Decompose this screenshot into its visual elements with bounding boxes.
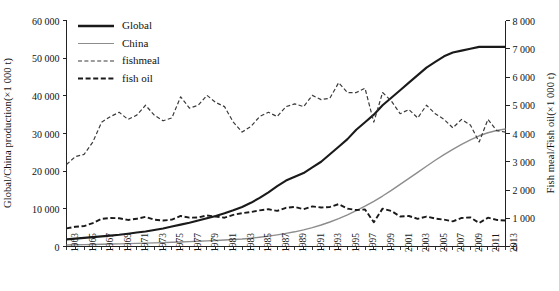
chart-figure: Global/China production(×1 000 t) Fish m… <box>0 0 559 291</box>
legend-label-Global: Global <box>122 19 152 31</box>
x-tick-label: 2003 <box>421 233 431 252</box>
x-tick-label: 1991 <box>316 233 326 252</box>
x-tick-label: 1963 <box>70 233 80 252</box>
x-tick-label: 1995 <box>351 233 361 252</box>
x-tick-label: 1965 <box>88 233 98 252</box>
y-tick-label-left: 0 <box>55 241 60 252</box>
x-tick-label: 2009 <box>474 233 484 252</box>
y-tick-label-left: 60 000 <box>32 15 60 26</box>
y-tick-label-left: 50 000 <box>32 53 60 64</box>
x-tick-label: 1977 <box>193 233 203 252</box>
x-tick-label: 1979 <box>210 233 220 252</box>
x-tick-label: 1971 <box>140 233 150 252</box>
y-tick-label-right: 3 000 <box>513 156 536 167</box>
x-tick-label: 1993 <box>333 233 343 252</box>
series-line-fish-oil <box>67 204 506 228</box>
legend-label-fish-oil: fish oil <box>122 72 153 84</box>
y-axis-title-right: Fish meal/Fish oil(×1 000 t) <box>545 20 559 246</box>
x-tick-label: 1981 <box>228 233 238 252</box>
y-tick-label-right: 8 000 <box>513 15 536 26</box>
y-tick-label-right: 2 000 <box>513 185 536 196</box>
y-tick-label-right: 1 000 <box>513 213 536 224</box>
series-line-China <box>67 129 506 245</box>
y-tick-label-left: 20 000 <box>32 166 60 177</box>
x-tick-label: 2005 <box>439 233 449 252</box>
x-tick-label: 1999 <box>386 233 396 252</box>
x-tick-label: 2013 <box>509 233 519 252</box>
y-tick-label-right: 5 000 <box>513 100 536 111</box>
x-tick-label: 2011 <box>491 233 501 252</box>
x-tick-label: 1967 <box>105 233 115 252</box>
x-tick-label: 1973 <box>158 233 168 252</box>
y-tick-label-right: 6 000 <box>513 72 536 83</box>
legend-label-fishmeal: fishmeal <box>122 54 160 66</box>
y-axis-title-left: Global/China production(×1 000 t) <box>2 20 16 246</box>
x-tick-label: 1983 <box>246 233 256 252</box>
y-tick-label-left: 40 000 <box>32 90 60 101</box>
x-tick-label: 1987 <box>281 233 291 252</box>
y-tick-label-left: 10 000 <box>32 203 60 214</box>
y-tick-label-left: 30 000 <box>32 128 60 139</box>
x-tick-label: 2007 <box>456 233 466 252</box>
y-tick-label-right: 4 000 <box>513 128 536 139</box>
x-tick-label: 1975 <box>175 233 185 252</box>
x-tick-label: 2001 <box>404 233 414 252</box>
x-tick-label: 1997 <box>368 233 378 252</box>
y-tick-label-right: 7 000 <box>513 43 536 54</box>
series-line-fishmeal <box>67 83 506 165</box>
x-tick-label: 1969 <box>123 233 133 252</box>
x-tick-label: 1989 <box>298 233 308 252</box>
x-tick-label: 1985 <box>263 233 273 252</box>
legend-label-China: China <box>122 37 148 49</box>
